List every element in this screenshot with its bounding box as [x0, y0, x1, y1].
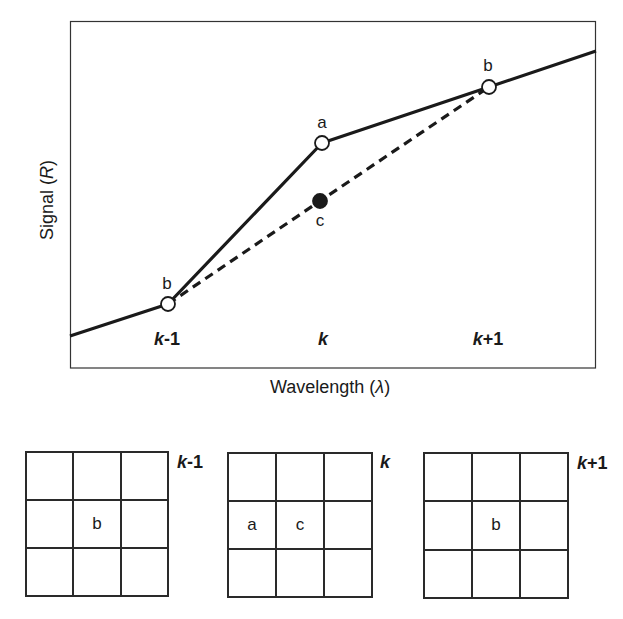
grid-cell	[26, 500, 73, 548]
grid-cell	[276, 549, 324, 597]
y-axis-label: Signal (R)	[37, 160, 57, 240]
grid-cell	[324, 549, 372, 597]
interpolated-dashed-line	[168, 87, 489, 304]
grid-cell-center: c	[276, 501, 324, 549]
point-b-right-marker	[482, 80, 496, 94]
grid-cell-center: b	[73, 500, 120, 548]
grid-cell	[26, 548, 73, 596]
grid-cell	[228, 549, 276, 597]
pixel-grid-k: a c	[227, 452, 373, 598]
point-a-marker	[315, 136, 329, 150]
pixel-grid-k-minus-1: b	[25, 451, 169, 597]
grid-label-k-plus-1: k+1	[577, 453, 608, 474]
point-c-marker	[313, 194, 327, 208]
grid-cell	[26, 452, 73, 500]
grid-cell	[520, 501, 568, 549]
grid-cell-left: a	[228, 501, 276, 549]
grid-cell-center: b	[472, 501, 520, 549]
band-label-k-plus-1: k+1	[473, 329, 504, 349]
grid-label-k-minus-1: k-1	[177, 452, 203, 473]
point-b-left-label: b	[162, 274, 171, 293]
grid-cell	[520, 453, 568, 501]
spectral-plot: b a c b k-1 k k+1 Wavelength (λ) Signal …	[0, 0, 623, 420]
grid-label-k: k	[380, 452, 390, 473]
grid-cell	[472, 453, 520, 501]
point-a-label: a	[317, 113, 327, 132]
grid-cell	[121, 500, 168, 548]
grid-cell	[424, 501, 472, 549]
grid-cell	[424, 453, 472, 501]
grid-cell	[276, 453, 324, 501]
grid-cell	[424, 550, 472, 598]
grid-cell	[520, 550, 568, 598]
band-label-k: k	[318, 329, 329, 349]
grid-cell	[472, 550, 520, 598]
point-b-right-label: b	[483, 56, 492, 75]
grid-cell	[121, 452, 168, 500]
plot-frame	[71, 22, 596, 369]
point-b-left-marker	[161, 297, 175, 311]
x-axis-label: Wavelength (λ)	[270, 377, 390, 397]
pixel-grid-k-plus-1: b	[423, 452, 569, 599]
grid-cell	[121, 548, 168, 596]
grid-cell	[324, 453, 372, 501]
grid-cell	[228, 453, 276, 501]
point-c-label: c	[316, 211, 325, 230]
grid-cell	[73, 548, 120, 596]
grid-cell	[73, 452, 120, 500]
grid-cell	[324, 501, 372, 549]
band-label-k-minus-1: k-1	[154, 329, 180, 349]
